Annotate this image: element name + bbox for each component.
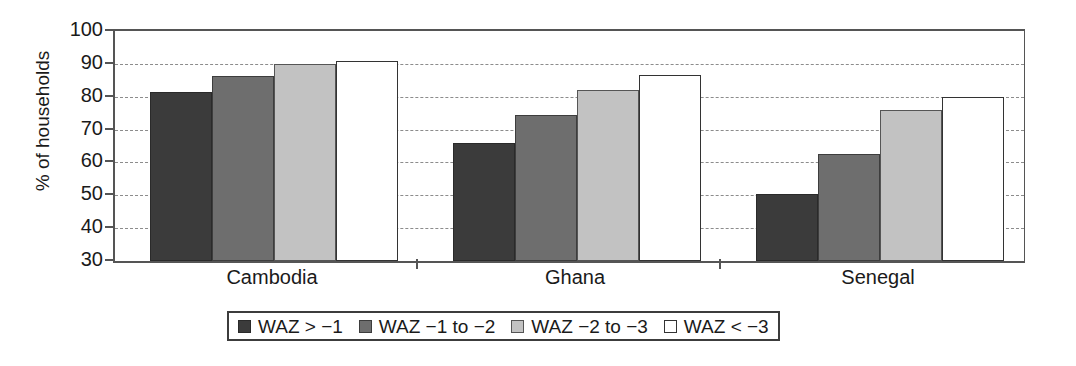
legend-label-3: WAZ < −3 <box>684 317 769 336</box>
legend-swatch-icon-0 <box>238 320 251 333</box>
legend-label-1: WAZ −1 to −2 <box>379 317 496 336</box>
y-tick-label-50: 50 <box>57 183 103 203</box>
legend-swatch-icon-3 <box>664 320 677 333</box>
legend-item-1: WAZ −1 to −2 <box>359 317 496 336</box>
y-axis-title: % of households <box>32 6 54 236</box>
y-tick-label-80: 80 <box>57 85 103 105</box>
legend-item-3: WAZ < −3 <box>664 317 769 336</box>
x-axis-label-senegal: Senegal <box>778 266 978 289</box>
bar-cambodia-series-3 <box>336 61 398 261</box>
y-tick-label-40: 40 <box>57 216 103 236</box>
legend-swatch-icon-1 <box>359 320 372 333</box>
bar-cambodia-series-1 <box>212 76 274 261</box>
bar-ghana-series-0 <box>453 143 515 261</box>
y-tick-label-90: 90 <box>57 52 103 72</box>
bar-chart: % of households 30405060708090100 Cambod… <box>0 0 1076 300</box>
bar-ghana-series-3 <box>639 75 701 261</box>
bar-senegal-series-0 <box>756 194 818 261</box>
legend-label-0: WAZ > −1 <box>258 317 343 336</box>
bar-senegal-series-2 <box>880 110 942 261</box>
legend-item-0: WAZ > −1 <box>238 317 343 336</box>
bar-senegal-series-1 <box>818 154 880 261</box>
y-tick-label-60: 60 <box>57 150 103 170</box>
gridline-90 <box>115 64 1024 65</box>
bar-cambodia-series-2 <box>274 64 336 261</box>
x-axis-label-cambodia: Cambodia <box>172 266 372 289</box>
y-tick-label-70: 70 <box>57 118 103 138</box>
x-tick-mark-1 <box>416 259 418 269</box>
chart-screenshot: % of households 30405060708090100 Cambod… <box>0 0 1076 366</box>
bar-ghana-series-1 <box>515 115 577 261</box>
legend-label-2: WAZ −2 to −3 <box>531 317 648 336</box>
y-tick-label-100: 100 <box>57 19 103 39</box>
bar-senegal-series-3 <box>942 97 1004 261</box>
x-tick-mark-2 <box>719 259 721 269</box>
chart-legend: WAZ > −1WAZ −1 to −2WAZ −2 to −3WAZ < −3 <box>227 311 780 341</box>
bar-ghana-series-2 <box>577 90 639 261</box>
x-axis-label-ghana: Ghana <box>475 266 675 289</box>
legend-swatch-icon-2 <box>511 320 524 333</box>
legend-item-2: WAZ −2 to −3 <box>511 317 648 336</box>
bar-cambodia-series-0 <box>150 92 212 261</box>
y-tick-label-30: 30 <box>57 249 103 269</box>
plot-area <box>113 29 1025 263</box>
